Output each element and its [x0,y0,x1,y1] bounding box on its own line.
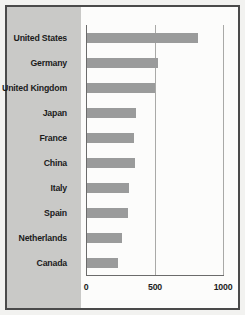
category-label: Japan [0,108,67,118]
bar [86,33,198,43]
category-label: China [0,158,67,168]
bar [86,108,136,118]
category-label: United States [0,33,67,43]
category-label: Spain [0,208,67,218]
y-axis-line [86,25,87,276]
bar [86,233,122,243]
bar [86,183,129,193]
category-label: Canada [0,258,67,268]
x-axis-line [86,275,224,276]
chart-frame: United StatesGermanyUnited KingdomJapanF… [5,5,240,310]
category-label: Germany [0,58,67,68]
category-label: France [0,133,67,143]
bar [86,208,128,218]
bar [86,133,134,143]
category-label: Netherlands [0,233,67,243]
chart-figure: United StatesGermanyUnited KingdomJapanF… [0,0,245,315]
bar [86,258,118,268]
category-label: United Kingdom [0,83,67,93]
bar [86,58,158,68]
category-label: Italy [0,183,67,193]
bar [86,158,135,168]
bar [86,83,155,93]
x-tick-label: 0 [58,281,113,292]
gridline-1000 [223,25,224,275]
x-tick-label: 500 [127,281,182,292]
x-tick-label: 1000 [195,281,245,292]
